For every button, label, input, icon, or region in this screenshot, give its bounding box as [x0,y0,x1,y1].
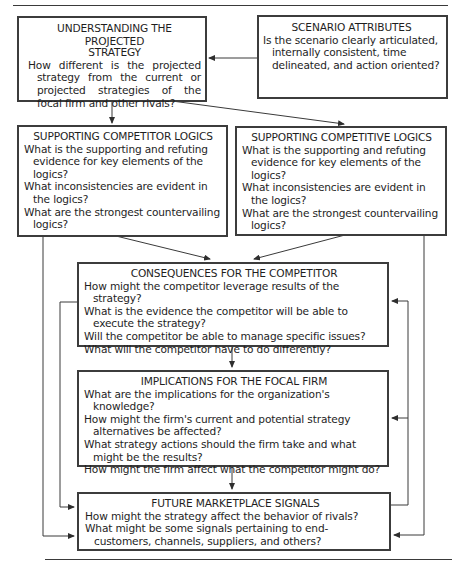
understanding-question-1: How different is the projected strategy … [28,59,201,109]
scenario-title: SCENARIO ATTRIBUTES [263,21,440,34]
future-marketplace-signals-box: FUTURE MARKETPLACE SIGNALS How might the… [77,492,391,551]
supporting-competitor-logics-box: SUPPORTING COMPETITOR LOGICS What is the… [17,125,228,237]
signals-question-1: How might the strategy affect the behavi… [85,510,386,523]
competitive-logics-question-2: What inconsistencies are evident in the … [242,181,441,206]
consequences-question-1: How might the competitor leverage result… [84,280,384,305]
implications-question-1: What are the implications for the organi… [84,388,384,413]
consequences-question-2: What is the evidence the competitor will… [84,305,384,330]
signals-question-2: What might be some signals pertaining to… [85,522,386,547]
implications-for-focal-firm-box: IMPLICATIONS FOR THE FOCAL FIRM What are… [77,370,389,467]
consequences-question-4: What will the competitor have to do diff… [84,343,384,356]
understanding-title-line1: UNDERSTANDING THE PROJECTED [28,22,201,47]
consequences-title: CONSEQUENCES FOR THE COMPETITOR [84,267,384,280]
implications-question-2: How might the firm's current and potenti… [84,413,384,438]
understanding-projected-strategy-box: UNDERSTANDING THE PROJECTED STRATEGY How… [17,16,207,102]
competitor-logics-title: SUPPORTING COMPETITOR LOGICS [24,130,222,143]
consequences-for-competitor-box: CONSEQUENCES FOR THE COMPETITOR How migh… [77,262,389,347]
competitor-logics-question-3: What are the strongest countervailing lo… [24,206,222,231]
competitor-logics-question-2: What inconsistencies are evident in the … [24,180,222,205]
implications-question-3: What strategy actions should the firm ta… [84,438,384,463]
implications-title: IMPLICATIONS FOR THE FOCAL FIRM [84,375,384,388]
signals-title: FUTURE MARKETPLACE SIGNALS [85,497,386,510]
consequences-question-3: Will the competitor be able to manage sp… [84,330,384,343]
understanding-title-line2: STRATEGY [28,46,201,59]
scenario-question-1: Is the scenario clearly articulated, int… [263,34,440,72]
competitive-logics-question-3: What are the strongest countervailing lo… [242,207,441,232]
scenario-attributes-box: SCENARIO ATTRIBUTES Is the scenario clea… [257,15,448,99]
supporting-competitive-logics-box: SUPPORTING COMPETITIVE LOGICS What is th… [235,126,447,236]
competitor-logics-question-1: What is the supporting and refuting evid… [24,143,222,181]
implications-question-4: How might the firm affect what the compe… [84,463,384,476]
competitive-logics-question-1: What is the supporting and refuting evid… [242,144,441,182]
competitive-logics-title: SUPPORTING COMPETITIVE LOGICS [242,131,441,144]
